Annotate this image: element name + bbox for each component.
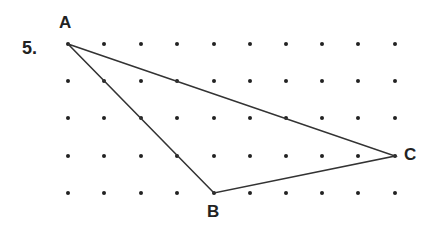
grid-dots — [66, 42, 397, 195]
grid-dot — [248, 42, 252, 46]
grid-dot — [102, 191, 106, 195]
grid-dot — [393, 79, 397, 83]
vertex-label-b: B — [207, 203, 219, 220]
grid-dot — [393, 42, 397, 46]
grid-dot — [356, 79, 360, 83]
grid-dot — [356, 154, 360, 158]
grid-dot — [248, 191, 252, 195]
grid-dot — [248, 116, 252, 120]
vertex-label-c: C — [404, 146, 416, 163]
grid-dot — [175, 191, 179, 195]
grid-dot — [356, 191, 360, 195]
grid-dot — [320, 42, 324, 46]
grid-dot — [320, 191, 324, 195]
grid-dot — [212, 79, 216, 83]
grid-dot — [320, 116, 324, 120]
grid-dot — [66, 154, 70, 158]
grid-dot — [66, 79, 70, 83]
grid-dot — [284, 42, 288, 46]
grid-dot — [66, 191, 70, 195]
grid-dot — [212, 42, 216, 46]
grid-dot — [393, 191, 397, 195]
grid-dot — [320, 79, 324, 83]
grid-dot — [139, 154, 143, 158]
grid-dot — [66, 116, 70, 120]
grid-dot — [320, 154, 324, 158]
grid-dot — [393, 116, 397, 120]
grid-dot — [102, 42, 106, 46]
vertex-label-a: A — [59, 14, 71, 31]
grid-dot — [139, 42, 143, 46]
grid-dot — [284, 79, 288, 83]
grid-dot — [248, 79, 252, 83]
grid-dot — [102, 116, 106, 120]
grid-dot — [139, 191, 143, 195]
grid-dot — [356, 42, 360, 46]
grid-dot — [212, 154, 216, 158]
triangle-abc — [68, 44, 395, 193]
grid-dot — [284, 154, 288, 158]
grid-dot — [356, 116, 360, 120]
grid-dot — [102, 154, 106, 158]
grid-dot — [284, 191, 288, 195]
grid-dot — [139, 79, 143, 83]
grid-dot — [175, 116, 179, 120]
grid-dot — [248, 154, 252, 158]
grid-dot — [212, 116, 216, 120]
grid-dot — [175, 42, 179, 46]
